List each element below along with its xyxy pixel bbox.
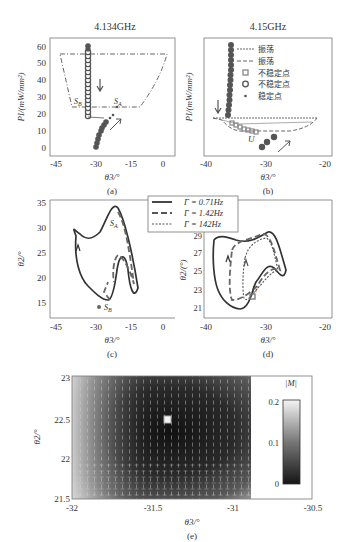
panel-c-curve-0.71hz <box>74 206 138 300</box>
panel-a-down-arrow-icon <box>97 79 103 91</box>
svg-text:振荡: 振荡 <box>258 56 274 66</box>
panel-c-ylabel: θ2/° <box>16 251 26 266</box>
panel-d-arrow-icon-2 <box>244 260 248 266</box>
svg-text:-30: -30 <box>90 159 102 169</box>
panel-a-frame <box>50 38 175 156</box>
panel-b-up-arrow-icon <box>278 141 290 152</box>
svg-text:-15: -15 <box>125 322 137 332</box>
panel-c-caption: (c) <box>107 349 117 359</box>
panel-c-arrow-icon <box>76 245 80 251</box>
panel-a-yticks: 60 50 40 30 20 10 0 <box>37 42 47 153</box>
panel-b-ylabel: PI/(mW/mm²) <box>184 72 194 122</box>
svg-text:Γ = 0.71Hz: Γ = 0.71Hz <box>183 197 224 207</box>
svg-text:-15: -15 <box>125 159 137 169</box>
panel-e-xticks: -32 -31.5 -31 -30.5 <box>66 503 323 513</box>
svg-text:15: 15 <box>37 298 47 308</box>
panel-c-xticks: -45 -30 -15 0 <box>50 322 166 332</box>
svg-text:-20: -20 <box>319 322 331 332</box>
panel-a-xticks: -45 -30 -15 0 <box>50 159 166 169</box>
svg-text:40: 40 <box>37 75 47 85</box>
panel-a-label-sb: SB <box>74 97 82 107</box>
panel-c-xlabel: θ3/° <box>104 335 119 345</box>
svg-text:0: 0 <box>275 479 279 489</box>
svg-text:30: 30 <box>37 92 47 102</box>
svg-text:25: 25 <box>37 248 47 258</box>
svg-text:0.1: 0.1 <box>268 438 279 448</box>
svg-text:-32: -32 <box>66 503 78 513</box>
svg-text:Γ = 1.42Hz: Γ = 1.42Hz <box>183 208 224 218</box>
svg-text:不稳定点: 不稳定点 <box>258 79 290 89</box>
svg-text:-30: -30 <box>260 322 272 332</box>
panel-a-ylabel: PI/(mW/mm²) <box>16 72 26 122</box>
svg-text:22: 22 <box>61 454 70 464</box>
svg-text:25: 25 <box>194 266 203 276</box>
panel-a-label-sa: SA <box>114 97 122 107</box>
svg-text:-31: -31 <box>227 503 239 513</box>
panel-e-xlabel: θ3/° <box>184 517 199 527</box>
panel-c-label-sb: SB <box>104 303 112 313</box>
svg-text:21: 21 <box>194 303 203 313</box>
panel-a-caption: (a) <box>107 186 117 196</box>
svg-text:0.2: 0.2 <box>268 397 279 407</box>
panel-b-label-u: U <box>248 134 255 144</box>
shared-legend: Γ = 0.71Hz Γ = 1.42Hz Γ = 142Hz <box>148 196 238 232</box>
svg-text:60: 60 <box>37 42 47 52</box>
panel-d-label-u: U <box>252 285 259 294</box>
panel-a-xlabel: θ3/° <box>104 172 119 182</box>
figure-canvas: 4.134GHz 60 50 40 30 20 10 0 -45 -30 -15… <box>0 0 349 542</box>
svg-text:|M|: |M| <box>285 378 297 388</box>
svg-text:-20: -20 <box>319 159 331 169</box>
svg-text:稳定点: 稳定点 <box>258 91 282 101</box>
svg-text:22.5: 22.5 <box>54 415 70 425</box>
panel-d-xlabel: θ3/° <box>260 335 275 345</box>
panel-d-caption: (d) <box>263 349 274 359</box>
svg-text:50: 50 <box>37 58 47 68</box>
svg-text:0: 0 <box>161 159 166 169</box>
panel-e-fixed-point <box>164 416 171 423</box>
panel-c-yticks: 15 20 25 30 35 <box>37 198 47 308</box>
panel-c-curve-1.42hz <box>104 212 134 300</box>
legend-open-circle-icon <box>243 81 249 87</box>
panel-e-heatmap <box>72 376 251 499</box>
panel-a-up-arrow-icon <box>110 119 121 130</box>
panel-e-caption: (e) <box>187 531 197 541</box>
svg-text:0: 0 <box>161 322 166 332</box>
panel-a: 4.134GHz 60 50 40 30 20 10 0 -45 -30 -15… <box>16 21 175 196</box>
panel-b: 4.15GHz -40 -30 -20 θ3/° (b) PI/(mW/mm²) <box>184 21 332 196</box>
svg-text:-40: -40 <box>200 159 212 169</box>
panel-b-oscillation-dashed <box>213 118 317 131</box>
svg-text:29: 29 <box>194 231 203 241</box>
svg-text:-31.5: -31.5 <box>144 503 163 513</box>
svg-text:-45: -45 <box>50 159 62 169</box>
panel-c-point-sb <box>97 305 101 309</box>
svg-text:35: 35 <box>37 198 47 208</box>
svg-text:-30: -30 <box>260 159 272 169</box>
legend-square-icon <box>243 70 248 75</box>
svg-text:30: 30 <box>37 223 47 233</box>
legend-dot-icon <box>244 95 247 98</box>
panel-b-title: 4.15GHz <box>250 21 287 32</box>
svg-text:20: 20 <box>37 109 47 119</box>
svg-text:-45: -45 <box>50 322 62 332</box>
panel-a-unstable-points <box>85 49 90 118</box>
svg-text:Γ = 142Hz: Γ = 142Hz <box>183 219 222 229</box>
svg-text:0: 0 <box>42 143 47 153</box>
svg-text:20: 20 <box>37 273 47 283</box>
panel-b-caption: (b) <box>263 186 274 196</box>
panel-d-xticks: -40 -30 -20 <box>200 322 331 332</box>
panel-d-arrow-icon-1 <box>226 256 230 262</box>
svg-text:-30.5: -30.5 <box>304 503 323 513</box>
panel-e-yticks: 21.5 22 22.5 23 <box>54 373 70 504</box>
panel-d-ylabel: θ2/(°) <box>178 259 188 280</box>
svg-text:23: 23 <box>61 373 71 383</box>
panel-c-label-sa: SA <box>110 219 118 229</box>
svg-text:-40: -40 <box>200 322 212 332</box>
panel-e-colorbar: |M| 0.2 0.1 0 <box>268 378 300 489</box>
panel-d-yticks: 21 23 25 27 29 <box>194 231 203 313</box>
panel-a-title: 4.134GHz <box>94 21 136 32</box>
panel-b-xlabel: θ3/° <box>260 172 275 182</box>
panel-b-down-arrow-icon <box>215 100 221 113</box>
panel-b-legend: 振荡 振荡 不稳定点 不稳定点 稳定点 <box>237 44 290 101</box>
svg-text:10: 10 <box>37 126 47 136</box>
svg-text:振荡: 振荡 <box>258 44 274 54</box>
